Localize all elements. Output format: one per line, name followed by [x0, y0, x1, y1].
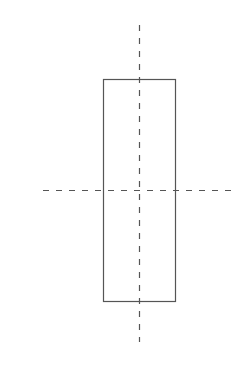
- centered-rectangle-diagram: [0, 0, 247, 368]
